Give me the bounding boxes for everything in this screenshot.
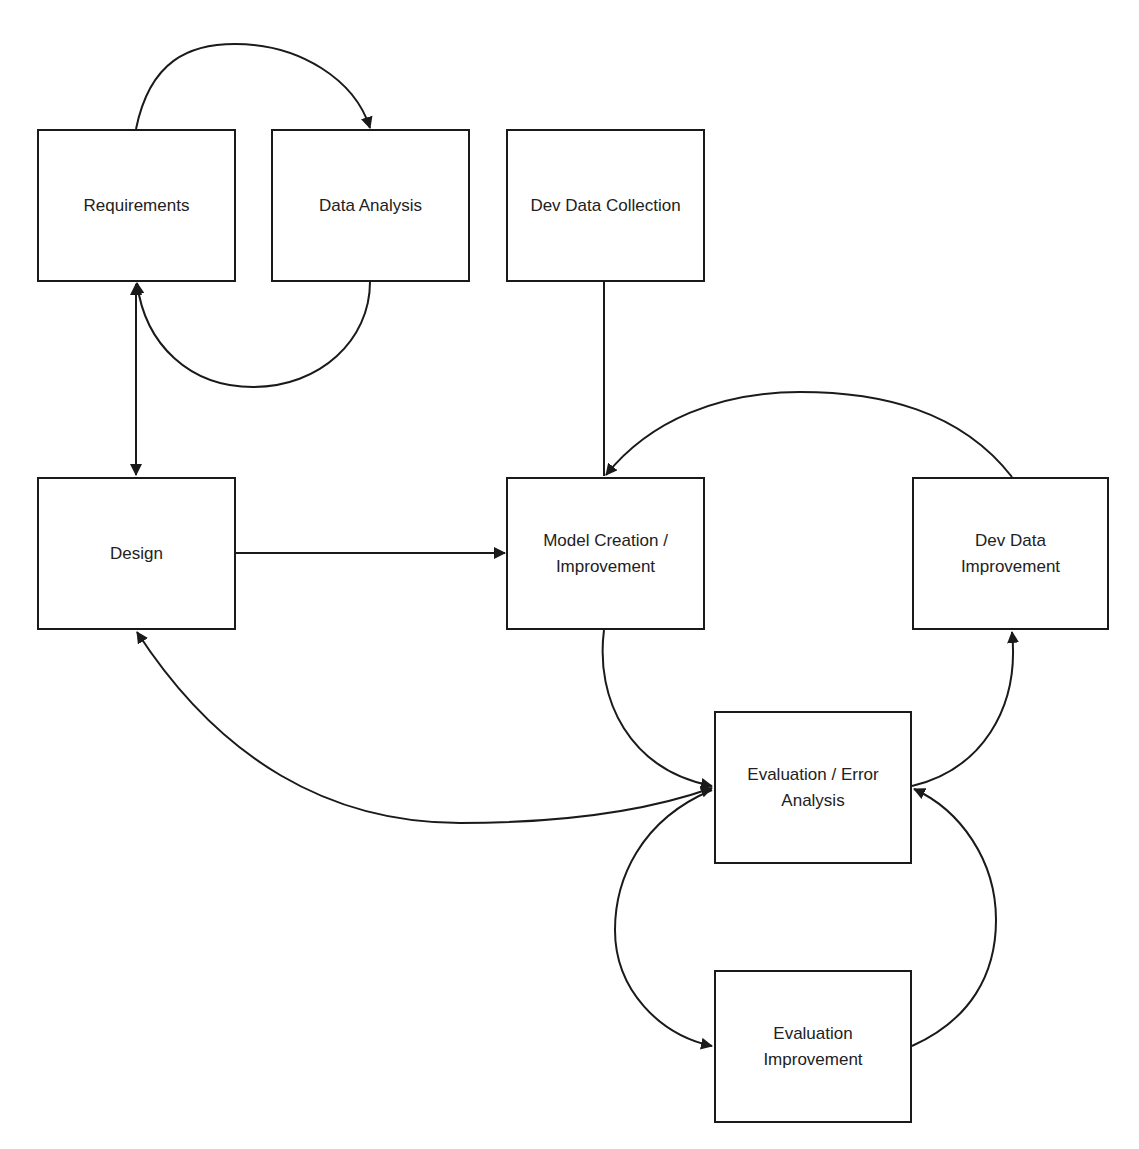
node-evaluation-improvement: Evaluation Improvement [714, 970, 912, 1123]
edge-requirements-to-data-analysis [136, 44, 370, 129]
edge-evaluation-to-dev-data-improvement [912, 632, 1013, 786]
node-model-creation: Model Creation / Improvement [506, 477, 705, 630]
edge-evaluation-to-evaluation-improvement [615, 790, 712, 1046]
node-label: Dev Data Improvement [961, 528, 1060, 580]
node-label: Dev Data Collection [530, 193, 680, 219]
node-requirements: Requirements [37, 129, 236, 282]
edge-design-evaluation [137, 632, 712, 823]
node-dev-data-improvement: Dev Data Improvement [912, 477, 1109, 630]
node-label: Model Creation / Improvement [543, 528, 668, 580]
edge-evaluation-improvement-to-evaluation [912, 789, 996, 1046]
edge-data-analysis-to-requirements [137, 282, 370, 387]
node-label: Data Analysis [319, 193, 422, 219]
node-label: Requirements [84, 193, 190, 219]
node-label: Evaluation / Error Analysis [747, 762, 878, 814]
node-evaluation-error-analysis: Evaluation / Error Analysis [714, 711, 912, 864]
node-label: Evaluation Improvement [763, 1021, 862, 1073]
node-design: Design [37, 477, 236, 630]
edge-dev-data-improvement-to-model-creation [606, 392, 1012, 477]
node-data-analysis: Data Analysis [271, 129, 470, 282]
edge-model-creation-to-evaluation [603, 630, 712, 786]
node-label: Design [110, 541, 163, 567]
node-dev-data-collection: Dev Data Collection [506, 129, 705, 282]
